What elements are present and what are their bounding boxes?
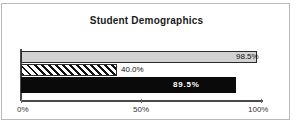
- plot-area: 98.5% 40.0% 89.5%: [21, 51, 262, 99]
- x-tick-50: [141, 99, 142, 103]
- bar-series-2[interactable]: [21, 64, 117, 76]
- bar-series-1[interactable]: [21, 51, 257, 63]
- x-tick-0: [21, 99, 22, 103]
- x-tick-label-0: 0%: [17, 105, 29, 114]
- bar-label-2: 40.0%: [121, 64, 144, 76]
- bar-label-3: 89.5%: [173, 77, 200, 93]
- x-tick-label-50: 50%: [133, 105, 149, 114]
- x-axis-line: [21, 100, 263, 102]
- x-tick-label-100: 100%: [248, 105, 268, 114]
- chart-frame: Student Demographics 98.5% 40.0% 89.5% 0…: [1, 3, 290, 120]
- bar-label-1: 98.5%: [236, 51, 259, 63]
- x-tick-100: [261, 99, 262, 103]
- chart-title: Student Demographics: [2, 15, 291, 26]
- bar-series-3[interactable]: [21, 77, 236, 93]
